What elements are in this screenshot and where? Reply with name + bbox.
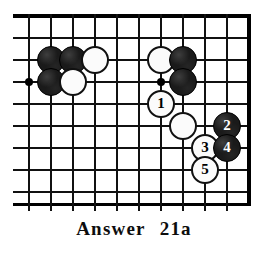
stone-move-1[interactable]: 1 [147,90,175,118]
grid-line-vertical-1 [50,14,52,211]
stone-number: 3 [201,140,209,155]
stone-move-4[interactable]: 4 [213,134,241,162]
stone-black[interactable] [169,68,197,96]
grid-line-vertical-0 [28,14,30,211]
stone-white[interactable] [59,68,87,96]
grid-line-right-edge [247,14,251,206]
stone-number: 2 [223,118,231,133]
caption-label: Answer [76,218,145,239]
stone-white[interactable] [169,112,197,140]
stone-number: 1 [157,96,165,111]
grid-line-horizontal-8 [13,191,251,193]
stone-move-5[interactable]: 5 [191,156,219,184]
stone-number: 5 [201,162,209,177]
grid-line-vertical-2 [72,14,74,211]
grid-line-bottom-edge [13,203,251,206]
go-board[interactable]: 12345 [0,0,268,215]
go-diagram-figure: 12345 Answer21a [0,0,268,263]
star-point-1 [157,78,165,86]
stone-number: 4 [223,140,231,155]
stone-white[interactable] [81,46,109,74]
grid-line-horizontal-0 [13,14,251,18]
grid-line-horizontal-1 [13,37,251,39]
caption-number: 21a [160,218,192,239]
grid-line-vertical-5 [138,14,140,211]
figure-caption: Answer21a [0,218,268,240]
star-point-0 [25,78,33,86]
grid-line-vertical-3 [94,14,96,211]
grid-line-vertical-4 [116,14,118,211]
grid-line-horizontal-4 [13,103,251,105]
